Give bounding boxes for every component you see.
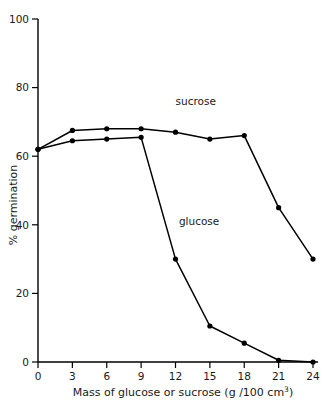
y-axis-ticks	[32, 19, 38, 362]
data-point-glucose	[207, 323, 212, 328]
series-line-sucrose	[38, 129, 313, 259]
series-glucose	[35, 135, 315, 365]
data-point-sucrose	[207, 136, 212, 141]
data-point-glucose	[276, 358, 281, 363]
data-point-glucose	[242, 341, 247, 346]
data-point-glucose	[173, 257, 178, 262]
x-axis-tick-label: 24	[306, 370, 320, 382]
data-point-glucose	[310, 359, 315, 364]
y-axis-title: % germination	[7, 165, 20, 246]
x-axis-tick-label: 0	[35, 370, 42, 382]
chart-svg: 020406080100 03691215182124 sucrosegluco…	[0, 0, 327, 406]
data-point-glucose	[104, 136, 109, 141]
x-axis-tick-label: 3	[69, 370, 76, 382]
chart-series-layer	[35, 126, 315, 364]
data-point-sucrose	[242, 133, 247, 138]
x-axis-tick-label: 18	[238, 370, 251, 382]
x-axis-tick-label: 6	[103, 370, 110, 382]
data-point-glucose	[35, 147, 40, 152]
x-axis-tick-label: 21	[272, 370, 285, 382]
series-annotation-glucose: glucose	[179, 215, 219, 227]
series-sucrose	[35, 126, 315, 262]
x-axis-ticks	[38, 362, 313, 368]
data-point-sucrose	[70, 128, 75, 133]
x-axis-title: Mass of glucose or sucrose (g /100 cm3)	[73, 385, 293, 399]
germination-chart: 020406080100 03691215182124 sucrosegluco…	[0, 0, 327, 406]
y-axis-tick-label: 100	[9, 13, 29, 25]
data-point-sucrose	[173, 130, 178, 135]
y-axis-tick-label: 80	[16, 81, 29, 93]
x-axis-title-tail: )	[289, 386, 293, 399]
chart-axes	[38, 19, 318, 362]
y-axis-tick-label: 20	[16, 287, 29, 299]
chart-annotations: sucroseglucose	[176, 95, 220, 227]
x-axis-tick-label: 15	[203, 370, 216, 382]
x-axis-tick-labels: 03691215182124	[35, 370, 320, 382]
data-point-sucrose	[104, 126, 109, 131]
x-axis-title-main: Mass of glucose or sucrose (g /100 cm	[73, 386, 284, 399]
x-axis-tick-label: 9	[138, 370, 145, 382]
data-point-glucose	[70, 138, 75, 143]
data-point-glucose	[139, 135, 144, 140]
data-point-sucrose	[310, 257, 315, 262]
series-line-glucose	[38, 137, 313, 362]
x-axis-tick-label: 12	[169, 370, 182, 382]
data-point-sucrose	[139, 126, 144, 131]
y-axis-tick-label: 0	[22, 356, 29, 368]
series-annotation-sucrose: sucrose	[176, 95, 216, 107]
y-axis-tick-label: 60	[16, 150, 29, 162]
data-point-sucrose	[276, 205, 281, 210]
